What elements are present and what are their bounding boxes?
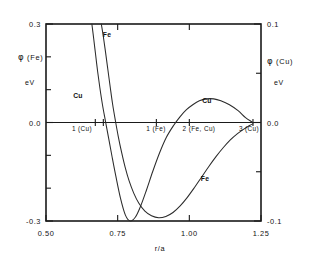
left-axis-bottom-tick-label: -0.3 (26, 217, 41, 226)
right-axis-unit-label: eV (274, 79, 284, 86)
x-tick-label-3: 1.25 (253, 229, 270, 238)
annotation-shell-1-cu: 1 (Cu) (72, 125, 92, 133)
left-axis-title-group: φ (Fe) eV (18, 52, 43, 86)
annotation-shell-2-fecu: 2 (Fe, Cu) (183, 125, 216, 133)
curve-label-fe-lower: Fe (201, 175, 210, 182)
curve-label-fe-upper: Fe (103, 31, 112, 38)
annotation-shell-3-cu: 3 (Cu) (239, 125, 259, 133)
left-axis-top-tick-label: 0.3 (29, 20, 41, 29)
right-axis-zero-tick-label: 0.0 (267, 119, 279, 128)
right-axis-bottom-tick-label: -0.1 (267, 217, 282, 226)
curve-label-cu-left: Cu (73, 92, 83, 99)
right-axis-top-tick-label: 0.1 (267, 20, 279, 29)
x-tick-label-2: 1.00 (181, 229, 198, 238)
phi-symbol-right: φ (267, 56, 273, 66)
chart-figure: 0.3 0.0 -0.3 φ (Fe) eV 0.1 0.0 -0.1 φ (C… (0, 0, 310, 259)
right-axis-species-label: (Cu) (276, 57, 293, 66)
phi-symbol-left: φ (18, 52, 24, 62)
left-axis-zero-tick-label: 0.0 (29, 119, 41, 128)
plot-svg: 0.3 0.0 -0.3 φ (Fe) eV 0.1 0.0 -0.1 φ (C… (0, 0, 310, 259)
left-axis-species-label: (Fe) (27, 53, 43, 62)
x-axis-title: r/a (155, 244, 166, 253)
x-tick-label-1: 0.75 (109, 229, 126, 238)
left-axis-unit-label: eV (25, 79, 35, 86)
curve-label-cu-right: Cu (202, 97, 212, 104)
annotation-shell-1-fe: 1 (Fe) (146, 125, 165, 133)
right-axis-title-group: φ (Cu) eV (267, 56, 293, 86)
x-tick-label-0: 0.50 (38, 229, 55, 238)
